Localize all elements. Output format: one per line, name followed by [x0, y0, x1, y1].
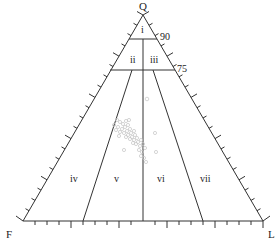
level-label-75: 75	[177, 63, 187, 74]
apex-label-q: Q	[139, 0, 147, 12]
ticks-right	[143, 12, 270, 222]
apex-label-l: L	[268, 228, 275, 240]
field-label-i: i	[141, 24, 144, 35]
field-label-v: v	[114, 173, 119, 184]
ticks-bottom	[35, 221, 263, 228]
apex-label-f: F	[6, 228, 12, 240]
field-label-vi: vi	[157, 173, 165, 184]
field-label-iii: iii	[150, 54, 159, 65]
ticks-left	[16, 12, 143, 222]
level-label-90: 90	[160, 31, 170, 42]
field-label-iv: iv	[70, 173, 78, 184]
field-label-ii: ii	[130, 54, 136, 65]
divider-left	[83, 70, 132, 221]
divider-right	[153, 70, 203, 221]
data-points	[112, 97, 157, 163]
field-label-vii: vii	[200, 173, 211, 184]
ternary-diagram: Q F L 90 75 i ii iii iv v vi vii	[0, 0, 279, 247]
